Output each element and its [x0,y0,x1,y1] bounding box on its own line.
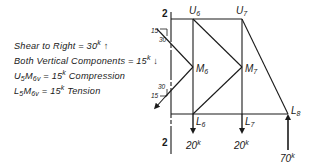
section-label-top: 2 [162,9,168,19]
slope-lower-rise: 15 [151,92,158,99]
load-label-l6: 20k [186,138,201,151]
node-sub: 6 [204,68,208,75]
section-label-bottom: 2 [162,138,168,148]
slope-triangle-lower [160,89,167,96]
node-label-m7: M7 [245,64,257,77]
load-label-l7: 20k [234,138,249,151]
load-value: 70 [280,153,291,162]
diagonal-u5-m6 [157,29,193,67]
node-label-l8: L8 [291,106,300,119]
node-sub: 8 [297,110,301,117]
load-value: 20 [234,140,245,151]
load-unit: k [245,139,249,146]
node-sub: 7 [253,68,257,75]
node-label-l6: L6 [196,117,205,130]
load-unit: k [291,152,295,159]
slope-lower-run: 30 [158,83,165,90]
reaction-label-l8: 70k [280,151,295,162]
diagonal-u6-m7 [193,19,242,67]
slope-upper-rise: 15 [151,27,158,34]
node-sub: 7 [251,121,255,128]
node-sub: 6 [196,10,200,17]
node-sub: 6 [202,121,206,128]
slope-upper-run: 30 [159,36,166,43]
load-value: 20 [186,140,197,151]
node-sub: 7 [243,10,247,17]
truss-diagram [0,0,318,162]
diagonal-m6-l5 [165,67,193,97]
node-label-l7: L7 [245,117,254,130]
node-label-u7: U7 [236,6,247,19]
node-label-u6: U6 [189,6,200,19]
load-unit: k [197,139,201,146]
node-label-m6: M6 [196,64,208,77]
